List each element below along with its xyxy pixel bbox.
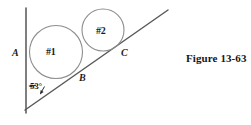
point-label-b: B bbox=[79, 73, 86, 83]
angle-measure-label: 53° bbox=[30, 82, 42, 91]
geometry-figure: A B C #1 #2 53° Figure 13-63 bbox=[0, 0, 251, 125]
figure-caption: Figure 13-63 bbox=[186, 52, 247, 64]
circle-label-1: #1 bbox=[46, 47, 56, 57]
circle-1 bbox=[30, 26, 83, 79]
circle-label-2: #2 bbox=[96, 26, 106, 36]
point-label-c: C bbox=[121, 48, 128, 58]
point-label-a: A bbox=[12, 48, 19, 58]
